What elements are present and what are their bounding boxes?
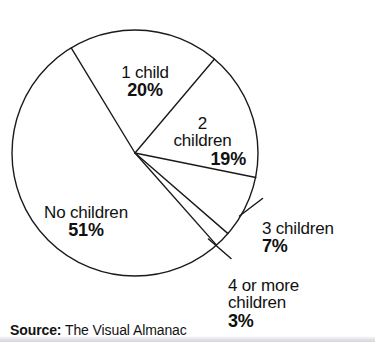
pie-slice-value-two-children: 19% [155, 150, 250, 169]
pie-slice-name-two-children: 2 children [174, 114, 232, 151]
pie-slice-label-two-children: 2 children 19% [155, 97, 250, 186]
pie-slice-value-four-or-more-children: 3% [228, 312, 374, 331]
pie-slice-name-three-children: 3 children [262, 219, 334, 238]
scan-edge-strip [0, 336, 375, 342]
pie-slice-label-no-children: No children 51% [18, 186, 154, 258]
pie-slice-name-one-child: 1 child [121, 63, 169, 82]
pie-slice-value-no-children: 51% [18, 221, 154, 240]
pie-slice-name-four-or-more-children: 4 or more children [228, 276, 299, 313]
pie-slice-label-four-or-more-children: 4 or more children 3% [228, 259, 374, 342]
pie-chart-figure: 1 child 20% 2 children 19% No children 5… [0, 0, 375, 342]
pie-slice-name-no-children: No children [44, 203, 128, 222]
pie-slice-value-three-children: 7% [262, 237, 374, 256]
